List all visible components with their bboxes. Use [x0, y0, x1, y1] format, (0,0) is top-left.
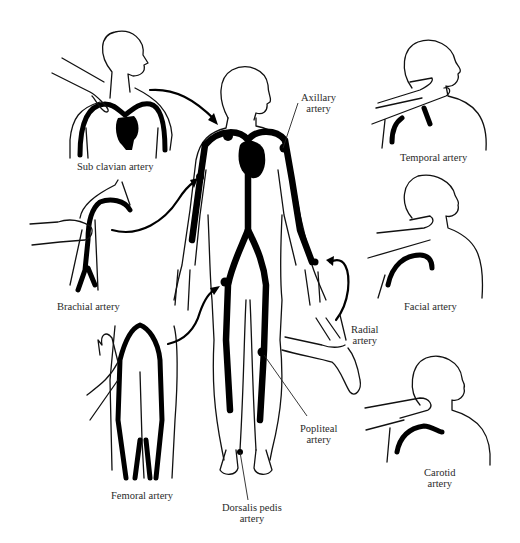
dorsalis-label-line1: Dorsalis pedis [222, 502, 282, 513]
carotid-label: Carotid artery [424, 467, 456, 489]
dorsalis-pedis-label: Dorsalis pedis artery [222, 502, 282, 524]
subclavian-panel [52, 31, 218, 158]
pulse-points-diagram [0, 0, 520, 543]
axillary-label-line2: artery [301, 103, 336, 114]
brachial-panel [30, 178, 198, 290]
femoral-label: Femoral artery [111, 490, 173, 501]
dorsalis-label-line2: artery [222, 513, 282, 524]
radial-label-line1: Radial [351, 324, 378, 335]
carotid-panel [365, 356, 490, 465]
axillary-label: Axillary artery [301, 92, 336, 114]
subclavian-label: Sub clavian artery [77, 161, 153, 172]
carotid-label-line1: Carotid [424, 467, 456, 478]
popliteal-label: Popliteal artery [300, 423, 337, 445]
carotid-label-line2: artery [424, 478, 456, 489]
popliteal-label-line2: artery [300, 434, 337, 445]
facial-label: Facial artery [404, 301, 457, 312]
temporal-panel [372, 40, 486, 150]
radial-label: Radial artery [351, 324, 378, 346]
radial-label-line2: artery [351, 335, 378, 346]
femoral-panel [87, 286, 220, 478]
brachial-label: Brachial artery [57, 301, 120, 312]
popliteal-label-line1: Popliteal [300, 423, 337, 434]
facial-panel [368, 175, 483, 298]
axillary-label-line1: Axillary [301, 92, 336, 103]
temporal-label: Temporal artery [400, 152, 467, 163]
radial-panel [282, 256, 360, 394]
